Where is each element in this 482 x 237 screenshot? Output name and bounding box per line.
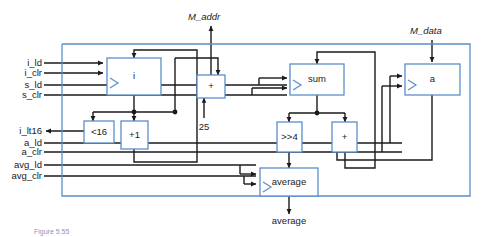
- block-label-shr-4: >>4: [276, 132, 303, 142]
- block-label-reg-a: a: [405, 74, 460, 84]
- label-a-clr: a_clr: [0, 147, 42, 157]
- block-label-reg-sum: sum: [290, 74, 344, 84]
- junction-dot: [173, 110, 178, 115]
- figure-datapath-diagram: M_addr M_data i_ld i_clr s_ld s_clr i_lt…: [0, 0, 482, 237]
- block-label-cmp-lt16: <16: [84, 127, 114, 137]
- block-label-reg-average: average: [260, 177, 318, 187]
- block-label-reg-i: i: [107, 71, 161, 81]
- label-avg-ld: avg_ld: [0, 160, 42, 170]
- label-i-lt16: i_lt16: [0, 126, 42, 136]
- label-avg-clr: avg_clr: [0, 171, 42, 181]
- label-average-output: average: [260, 216, 318, 226]
- label-i-clr: i_clr: [0, 68, 42, 78]
- block-label-adder-sum: +: [332, 132, 357, 142]
- junction-dot: [132, 110, 137, 115]
- junction-dot: [315, 111, 320, 116]
- label-m-addr: M_addr: [188, 12, 220, 22]
- figure-caption: Figure 5.55: [34, 228, 69, 235]
- label-const-25: 25: [192, 122, 216, 132]
- label-m-data: M_data: [410, 26, 442, 36]
- label-s-clr: s_clr: [0, 90, 42, 100]
- block-label-adder-addr: +: [197, 81, 225, 91]
- block-label-inc-1: +1: [121, 130, 148, 140]
